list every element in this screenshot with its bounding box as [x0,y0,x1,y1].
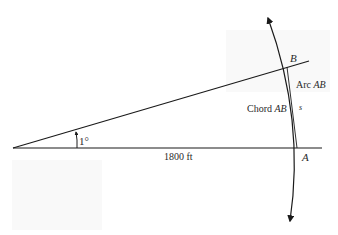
distance-label: 1800 ft [164,151,193,162]
arc-ab-label: Arc AB [296,79,326,90]
circular-arc [268,18,294,221]
chord-ab-label: Chord AB [247,103,287,114]
arc-length-s-label: s [299,103,302,112]
point-b-label: B [290,52,297,64]
arc-chord-diagram: 1° 1800 ft B A Arc AB Chord AB s [0,0,338,235]
point-a-label: A [301,151,309,163]
angle-label: 1° [79,135,89,147]
angle-arc-arrow [76,132,77,148]
